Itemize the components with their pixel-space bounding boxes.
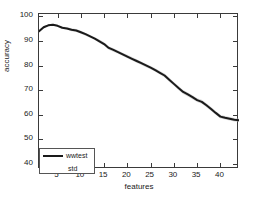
legend-band-sample-icon [43, 168, 63, 170]
figure: 405060708090100 510152025303540 accuracy… [0, 0, 254, 201]
data-plot [39, 14, 239, 169]
x-axis-label: features [0, 182, 254, 191]
legend-line-sample-icon [43, 155, 63, 157]
y-tick-mark [39, 16, 43, 17]
y-tick-mark-right [233, 164, 237, 165]
x-tick-label: 15 [99, 171, 108, 179]
y-tick-mark-right [233, 139, 237, 140]
x-tick-mark-top [174, 14, 175, 18]
y-tick-mark [39, 66, 43, 67]
plot-area [38, 13, 238, 168]
legend-entry-wwtest: wwtest [40, 149, 94, 162]
y-tick-mark [39, 139, 43, 140]
legend-entry-std: std [40, 162, 94, 175]
x-tick-mark-top [127, 14, 128, 18]
x-tick-mark-top [197, 14, 198, 18]
x-tick-mark [197, 163, 198, 167]
y-tick-mark [39, 115, 43, 116]
x-tick-mark [151, 163, 152, 167]
x-tick-mark [127, 163, 128, 167]
x-tick-mark [220, 163, 221, 167]
y-tick-mark-right [233, 115, 237, 116]
y-tick-mark-right [233, 66, 237, 67]
x-tick-label: 20 [122, 171, 131, 179]
x-tick-label: 25 [145, 171, 154, 179]
x-tick-mark-top [151, 14, 152, 18]
x-tick-label: 30 [168, 171, 177, 179]
y-tick-mark-right [233, 41, 237, 42]
y-tick-mark [39, 41, 43, 42]
x-tick-label: 35 [192, 171, 201, 179]
x-tick-mark-top [220, 14, 221, 18]
legend-label-std: std [68, 165, 77, 172]
y-tick-mark-right [233, 16, 237, 17]
y-tick-mark-right [233, 90, 237, 91]
x-tick-mark-top [81, 14, 82, 18]
x-tick-mark-top [104, 14, 105, 18]
y-axis-label: accuracy [2, 40, 11, 72]
legend: wwtest std [39, 148, 95, 174]
y-tick-mark [39, 90, 43, 91]
x-axis-label-text: features [125, 182, 154, 191]
x-tick-label: 40 [215, 171, 224, 179]
x-tick-mark-top [58, 14, 59, 18]
x-tick-mark [104, 163, 105, 167]
legend-label-wwtest: wwtest [66, 152, 87, 159]
x-tick-mark [174, 163, 175, 167]
